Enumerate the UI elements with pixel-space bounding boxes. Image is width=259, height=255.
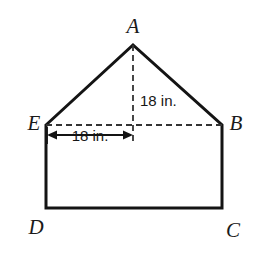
vertex-label-b: B [230, 111, 243, 135]
base-half-dimension-label: 18 in. [72, 127, 109, 144]
arrowhead-left-icon [47, 131, 57, 140]
vertex-label-d: D [27, 215, 43, 239]
vertex-label-a: A [125, 14, 140, 38]
geometry-figure-container: A E B D C 18 in. 18 in. [0, 0, 259, 255]
vertex-label-c: C [226, 218, 241, 242]
vertex-label-e: E [27, 111, 41, 135]
arrowhead-right-icon [123, 131, 133, 140]
height-dimension-label: 18 in. [140, 92, 177, 109]
geometry-diagram: A E B D C 18 in. 18 in. [0, 0, 259, 255]
